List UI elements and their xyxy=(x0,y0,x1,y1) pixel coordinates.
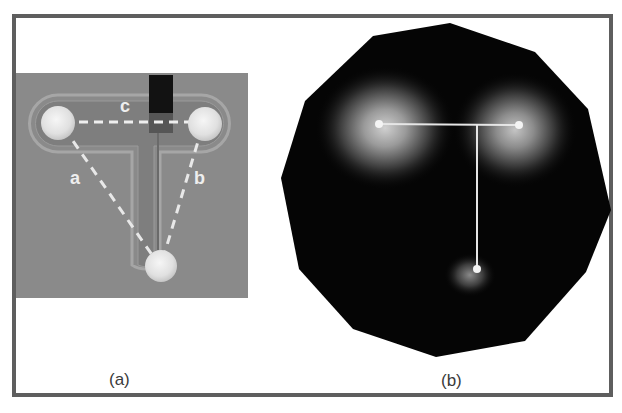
electrode-left xyxy=(41,106,75,140)
chip xyxy=(149,75,173,113)
point-bottom xyxy=(473,265,481,273)
point-left xyxy=(375,120,383,128)
electrode-bottom xyxy=(145,250,177,282)
figure-canvas: c a b xyxy=(0,0,622,413)
electrode-right xyxy=(188,107,222,141)
point-right xyxy=(515,121,523,129)
label-a: a xyxy=(70,168,81,188)
connector-horizontal xyxy=(379,124,519,125)
caption-a: (a) xyxy=(109,370,130,390)
panel-a-board: c a b xyxy=(16,73,248,298)
panel-b-heatmap xyxy=(281,23,611,357)
label-b: b xyxy=(194,168,205,188)
label-c: c xyxy=(120,96,130,116)
caption-b: (b) xyxy=(441,371,462,391)
